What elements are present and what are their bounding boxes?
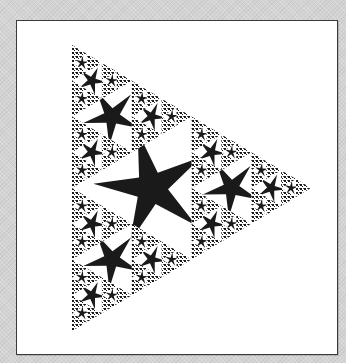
fractal-group [72, 45, 311, 331]
sierpinski-fractal-image [0, 0, 346, 363]
